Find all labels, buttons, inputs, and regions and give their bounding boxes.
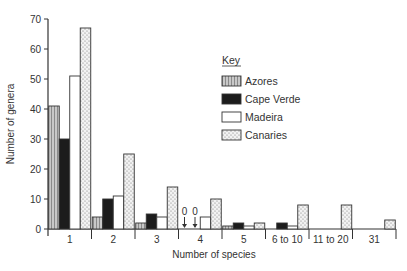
y-tick-label: 70 [30,14,42,25]
bar-madeira [70,76,81,229]
zero-annotation: 0 [192,206,198,217]
y-axis-title: Number of genera [5,83,16,164]
bar-canaries [124,154,135,229]
annotations: 00 [182,206,199,228]
x-tick-label: 2 [110,234,116,245]
bar-azores [49,106,60,229]
bar-madeira [244,226,255,229]
bar-canaries [385,220,396,229]
x-tick-label: 1 [67,234,73,245]
bar-madeira [113,196,124,229]
x-tick-label: 3 [154,234,160,245]
bar-cape-verde [146,214,157,229]
y-tick-label: 60 [30,44,42,55]
legend-title: Key [222,54,241,66]
y-tick-label: 40 [30,104,42,115]
legend-label: Cape Verde [245,93,301,105]
x-tick-label: 4 [197,234,203,245]
y-tick-label: 10 [30,194,42,205]
zero-annotation: 0 [182,206,188,217]
bar-cape-verde [233,223,244,229]
y-tick-label: 50 [30,74,42,85]
x-tick-label: 5 [241,234,247,245]
legend-label: Azores [245,75,278,87]
x-tick-label: 11 to 20 [313,234,349,245]
bar-madeira [287,226,298,229]
bar-canaries [298,205,309,229]
legend-swatch [222,94,241,104]
x-axis-title: Number of species [172,249,255,260]
bar-madeira [157,217,168,229]
bar-chart: 010203040506070123456 to 1011 to 2031Num… [0,0,407,271]
legend-swatch [222,112,241,122]
y-tick-label: 0 [35,224,41,235]
bar-cape-verde [59,139,70,229]
legend-swatch [222,130,241,140]
bar-canaries [211,199,222,229]
legend-label: Canaries [245,129,287,141]
y-tick-label: 30 [30,134,42,145]
bar-canaries [80,28,91,229]
y-tick-label: 20 [30,164,42,175]
bar-azores [136,223,147,229]
bar-azores [92,217,103,229]
legend-swatch [222,76,241,86]
bar-cape-verde [277,223,288,229]
legend: KeyAzoresCape VerdeMadeiraCanaries [222,54,301,141]
bar-canaries [167,187,178,229]
x-tick-label: 6 to 10 [272,234,303,245]
bar-canaries [341,205,352,229]
legend-label: Madeira [245,111,283,123]
bar-azores [223,226,234,229]
bar-canaries [254,223,265,229]
bar-cape-verde [103,199,114,229]
bar-madeira [200,217,211,229]
x-tick-label: 31 [369,234,381,245]
